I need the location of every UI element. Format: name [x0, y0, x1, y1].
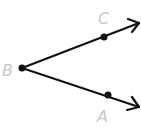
vertex-point-b: [19, 65, 26, 72]
ray-bc: [22, 19, 139, 68]
angle-diagram: B C A: [0, 0, 141, 129]
point-c: [101, 34, 108, 41]
label-c: C: [98, 9, 110, 28]
label-a: A: [96, 107, 108, 126]
ray-ba: [22, 68, 139, 110]
point-a: [105, 92, 112, 99]
label-b: B: [2, 61, 13, 80]
